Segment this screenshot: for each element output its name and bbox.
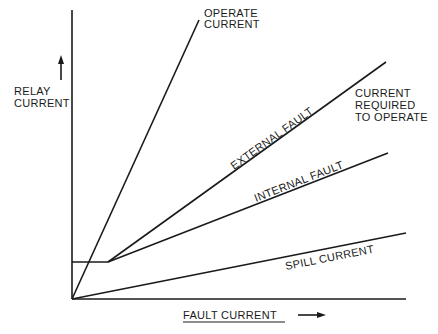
annotation-line1: CURRENT	[355, 87, 411, 99]
operate-current-line	[72, 20, 199, 299]
relay-characteristic-diagram: RELAY CURRENT OPERATE CURRENT EXTERNAL F…	[0, 0, 438, 334]
annotation-line3: TO OPERATE	[355, 111, 428, 123]
x-axis-label: FAULT CURRENT	[183, 309, 277, 321]
annotation-line2: REQUIRED	[355, 99, 415, 111]
y-axis-label-line2: CURRENT	[14, 97, 70, 109]
x-axis-arrow-icon	[298, 312, 326, 318]
internal-fault-label: INTERNAL FAULT	[252, 158, 345, 204]
spill-current-line	[72, 233, 406, 299]
y-axis-label-line1: RELAY	[14, 85, 51, 97]
spill-current-label: SPILL CURRENT	[284, 243, 375, 272]
operate-current-label-line2: CURRENT	[204, 18, 260, 30]
external-fault-label: EXTERNAL FAULT	[228, 104, 315, 171]
y-axis-arrow-icon	[58, 55, 64, 80]
